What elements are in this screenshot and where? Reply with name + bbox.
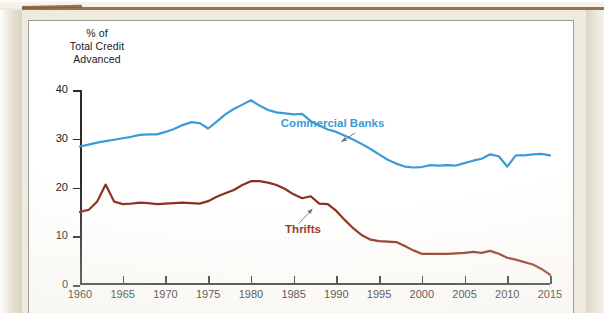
x-axis-tick-label: 1990 — [314, 288, 358, 300]
scanned-page: % of Total Credit Advanced 0102030401960… — [0, 0, 604, 313]
y-axis-tick — [73, 188, 80, 190]
x-axis-tick-label: 2005 — [443, 288, 487, 300]
x-axis-tick — [379, 276, 381, 284]
x-axis-tick-label: 2015 — [528, 288, 572, 300]
series-label-commercial-banks: Commercial Banks — [281, 117, 385, 129]
x-axis-tick — [208, 276, 210, 284]
y-axis-tick-label: 40 — [38, 83, 68, 95]
y-axis-tick — [73, 90, 80, 92]
x-axis-tick — [550, 276, 552, 284]
plot-area: 0102030401960196519701975198019851990199… — [80, 90, 550, 285]
x-axis-tick — [165, 276, 167, 284]
y-axis-tick — [73, 236, 80, 238]
y-axis-tick — [73, 139, 80, 141]
x-axis-tick-label: 2000 — [400, 288, 444, 300]
x-axis-tick-label: 1960 — [58, 288, 102, 300]
leader-commercial-banks-head — [341, 137, 346, 142]
x-axis-tick-label: 1970 — [143, 288, 187, 300]
page-top-rule — [22, 7, 604, 10]
y-axis-tick-label: 30 — [38, 132, 68, 144]
y-axis-tick — [73, 285, 80, 287]
x-axis-tick — [422, 276, 424, 284]
y-axis-caption: % of Total Credit Advanced — [43, 27, 151, 66]
y-axis-caption-line-3: Advanced — [43, 53, 151, 66]
x-axis-tick-label: 1995 — [357, 288, 401, 300]
x-axis-tick-label: 1985 — [272, 288, 316, 300]
x-axis-tick — [123, 276, 125, 284]
page-right-edge — [586, 10, 604, 313]
x-axis-tick — [294, 276, 296, 284]
x-axis-tick — [507, 276, 509, 284]
page-left-edge — [0, 10, 22, 313]
series-label-thrifts: Thrifts — [285, 223, 321, 235]
y-axis-tick-label: 10 — [38, 229, 68, 241]
x-axis-tick-label: 2010 — [485, 288, 529, 300]
y-axis-tick-label: 20 — [38, 181, 68, 193]
y-axis-caption-line-2: Total Credit — [43, 40, 151, 53]
x-axis-tick — [251, 276, 253, 284]
y-axis-caption-line-1: % of — [43, 27, 151, 40]
x-axis-tick-label: 1980 — [229, 288, 273, 300]
x-axis-tick — [465, 276, 467, 284]
x-axis-tick-label: 1965 — [101, 288, 145, 300]
x-axis-tick — [336, 276, 338, 284]
x-axis-tick-label: 1975 — [186, 288, 230, 300]
chart-figure: % of Total Credit Advanced 0102030401960… — [28, 20, 574, 313]
series-line-commercial-banks — [80, 100, 550, 167]
